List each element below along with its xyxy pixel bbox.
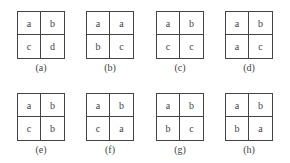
cell-top-left: a bbox=[18, 12, 41, 35]
cell-top-right: b bbox=[180, 12, 203, 35]
cell-top-right: b bbox=[249, 12, 272, 35]
panel-label: (a) bbox=[17, 62, 65, 73]
panel-f: a b c a (f) bbox=[86, 93, 134, 155]
panel-h: a b b a (h) bbox=[225, 93, 273, 155]
panel-label: (g) bbox=[156, 144, 204, 155]
cell-bottom-left: c bbox=[18, 35, 41, 58]
cell-top-left: a bbox=[226, 12, 249, 35]
grid-2x2: a a b c bbox=[86, 11, 134, 59]
grid-2x2: a b c d bbox=[17, 11, 65, 59]
cell-top-left: a bbox=[157, 94, 180, 117]
cell-bottom-left: c bbox=[157, 35, 180, 58]
cell-bottom-right: a bbox=[249, 117, 272, 140]
cell-top-right: b bbox=[41, 12, 64, 35]
cell-top-left: a bbox=[226, 94, 249, 117]
panel-a: a b c d (a) bbox=[17, 11, 65, 73]
cell-bottom-left: b bbox=[157, 117, 180, 140]
cell-bottom-right: c bbox=[180, 117, 203, 140]
grid-2x2: a b b a bbox=[225, 93, 273, 141]
grid-2x2: a b a c bbox=[225, 11, 273, 59]
cell-bottom-left: c bbox=[87, 117, 110, 140]
grid-2x2: a b c a bbox=[86, 93, 134, 141]
panel-e: a b c b (e) bbox=[17, 93, 65, 155]
panel-label: (c) bbox=[156, 62, 204, 73]
cell-bottom-left: a bbox=[226, 35, 249, 58]
panel-label: (d) bbox=[225, 62, 273, 73]
cell-top-left: a bbox=[87, 94, 110, 117]
cell-top-left: a bbox=[87, 12, 110, 35]
panel-b: a a b c (b) bbox=[86, 11, 134, 73]
grid-2x2: a b c b bbox=[17, 93, 65, 141]
panel-label: (b) bbox=[86, 62, 134, 73]
cell-bottom-right: b bbox=[41, 117, 64, 140]
cell-bottom-right: c bbox=[249, 35, 272, 58]
cell-bottom-right: a bbox=[110, 117, 133, 140]
panel-label: (e) bbox=[17, 144, 65, 155]
cell-bottom-right: d bbox=[41, 35, 64, 58]
cell-top-right: b bbox=[180, 94, 203, 117]
cell-top-right: b bbox=[41, 94, 64, 117]
cell-bottom-left: b bbox=[87, 35, 110, 58]
grid-2x2: a b b c bbox=[156, 93, 204, 141]
cell-top-right: b bbox=[249, 94, 272, 117]
panel-label: (f) bbox=[86, 144, 134, 155]
cell-top-left: a bbox=[18, 94, 41, 117]
cell-top-right: a bbox=[110, 12, 133, 35]
panel-g: a b b c (g) bbox=[156, 93, 204, 155]
cell-bottom-right: c bbox=[180, 35, 203, 58]
grid-2x2: a b c c bbox=[156, 11, 204, 59]
panel-label: (h) bbox=[225, 144, 273, 155]
cell-top-left: a bbox=[157, 12, 180, 35]
cell-bottom-left: c bbox=[18, 117, 41, 140]
panel-d: a b a c (d) bbox=[225, 11, 273, 73]
cell-bottom-left: b bbox=[226, 117, 249, 140]
cell-bottom-right: c bbox=[110, 35, 133, 58]
cell-top-right: b bbox=[110, 94, 133, 117]
panel-c: a b c c (c) bbox=[156, 11, 204, 73]
